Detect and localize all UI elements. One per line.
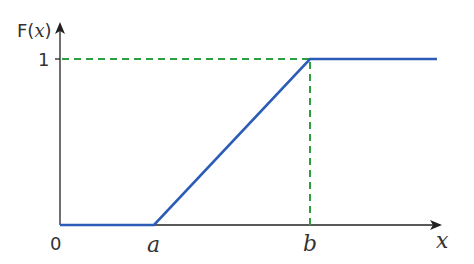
origin-label: 0 bbox=[50, 233, 61, 254]
y-axis-label: F(x) bbox=[17, 20, 52, 41]
a-label: a bbox=[147, 232, 160, 257]
y-tick-label-1: 1 bbox=[38, 49, 49, 70]
b-label: b bbox=[303, 231, 317, 256]
cdf-chart: F(x) 1 0 a b x bbox=[0, 0, 474, 264]
x-axis-label: x bbox=[436, 228, 449, 253]
cdf-curve bbox=[60, 59, 437, 225]
